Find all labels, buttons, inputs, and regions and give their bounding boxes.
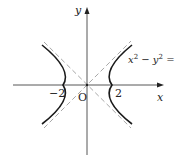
hyperbola-diagram: [0, 0, 177, 158]
x-axis-arrow-icon: [157, 83, 164, 88]
hyperbola-left-branch: [42, 45, 65, 124]
origin-label: O: [78, 92, 87, 103]
origin-point: [86, 84, 88, 86]
y-axis-arrow-icon: [85, 7, 90, 14]
eq-minus: −: [138, 54, 153, 65]
tick-label-pos-2: 2: [115, 88, 122, 99]
x-axis-label: x: [157, 92, 163, 103]
equation-label: x2 − y2 = 4: [128, 54, 177, 65]
eq-rhs: = 4: [163, 54, 177, 65]
y-axis-label: y: [75, 5, 81, 16]
tick-label-neg-2: −2: [49, 88, 65, 99]
